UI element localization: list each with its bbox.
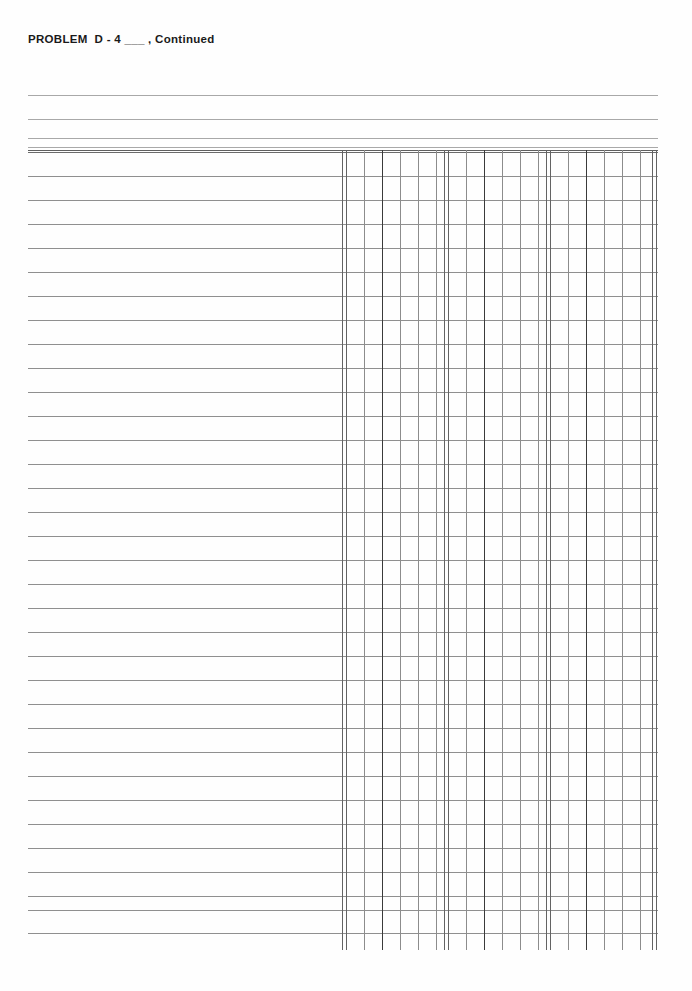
ledger-grid xyxy=(0,0,692,991)
ledger-column-rule xyxy=(604,150,605,950)
ledger-row-rule xyxy=(28,776,658,777)
ledger-row-rule xyxy=(28,910,658,911)
ledger-row-rule xyxy=(28,728,658,729)
ledger-row-rule xyxy=(28,150,658,151)
ledger-row-rule xyxy=(28,392,658,393)
ledger-column-rule xyxy=(342,150,343,950)
ledger-column-rule xyxy=(382,150,383,950)
ledger-row-rule xyxy=(28,933,658,934)
ledger-row-rule xyxy=(28,848,658,849)
ledger-row-rule xyxy=(28,800,658,801)
ledger-row-rule xyxy=(28,488,658,489)
ledger-column-rule xyxy=(364,150,365,950)
ledger-row-rule xyxy=(28,176,658,177)
ledger-row-rule xyxy=(28,512,658,513)
ledger-row-rule xyxy=(28,272,658,273)
ledger-row-rule xyxy=(28,560,658,561)
ledger-row-rule xyxy=(28,584,658,585)
ledger-column-rule xyxy=(346,150,347,950)
ledger-row-rule xyxy=(28,896,658,897)
ledger-row-rule xyxy=(28,152,658,153)
ledger-column-rule xyxy=(502,150,503,950)
ledger-column-rule xyxy=(640,150,641,950)
ledger-column-rule xyxy=(652,150,653,950)
ledger-row-rule xyxy=(28,200,658,201)
ledger-column-rule xyxy=(622,150,623,950)
worksheet-page: PROBLEM D - 4 ___ , Continued xyxy=(0,0,692,991)
ledger-row-rule xyxy=(28,824,658,825)
ledger-column-rule xyxy=(418,150,419,950)
ledger-column-rule xyxy=(656,150,657,950)
ledger-column-rule xyxy=(466,150,467,950)
ledger-row-rule xyxy=(28,752,658,753)
ledger-row-rule xyxy=(28,608,658,609)
ledger-row-rule xyxy=(28,656,658,657)
ledger-row-rule xyxy=(28,440,658,441)
ledger-row-rule xyxy=(28,296,658,297)
ledger-row-rule xyxy=(28,464,658,465)
ledger-row-rule xyxy=(28,224,658,225)
ledger-row-rule xyxy=(28,368,658,369)
ledger-column-rule xyxy=(568,150,569,950)
ledger-column-rule xyxy=(520,150,521,950)
ledger-row-rule xyxy=(28,704,658,705)
ledger-row-rule xyxy=(28,320,658,321)
ledger-column-rule xyxy=(550,150,551,950)
ledger-column-rule xyxy=(546,150,547,950)
ledger-row-rule xyxy=(28,632,658,633)
ledger-column-rule xyxy=(538,150,539,950)
ledger-column-rule xyxy=(484,150,485,950)
ledger-column-rule xyxy=(448,150,449,950)
ledger-row-rule xyxy=(28,536,658,537)
ledger-row-rule xyxy=(28,680,658,681)
ledger-column-rule xyxy=(436,150,437,950)
ledger-column-rule xyxy=(444,150,445,950)
ledger-row-rule xyxy=(28,872,658,873)
ledger-row-rule xyxy=(28,344,658,345)
ledger-row-rule xyxy=(28,416,658,417)
ledger-column-rule xyxy=(400,150,401,950)
ledger-row-rule xyxy=(28,248,658,249)
ledger-column-rule xyxy=(586,150,587,950)
